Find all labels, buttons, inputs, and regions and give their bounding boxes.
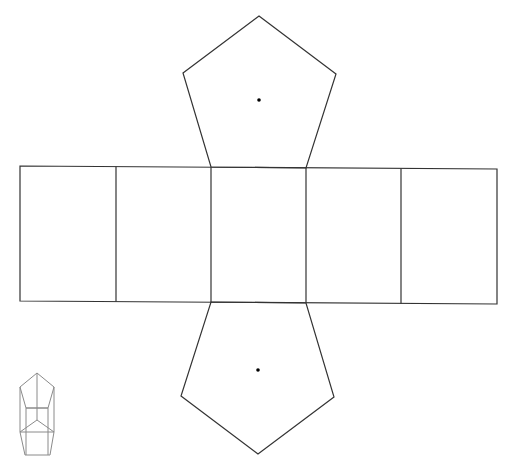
top-pentagon-face bbox=[183, 16, 336, 168]
prism-net-diagram bbox=[0, 0, 517, 472]
bottom-pentagon-face bbox=[181, 302, 334, 454]
prism-preview-icon bbox=[20, 373, 54, 455]
lateral-faces-strip bbox=[20, 166, 497, 304]
bottom-center-dot bbox=[256, 368, 260, 372]
face-dividers bbox=[116, 167, 401, 304]
top-center-dot bbox=[257, 98, 261, 102]
